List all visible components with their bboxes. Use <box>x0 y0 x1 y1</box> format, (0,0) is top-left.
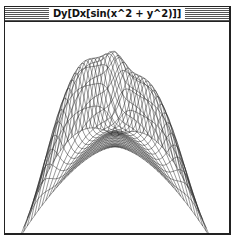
plot-area <box>5 22 229 233</box>
surface-plot <box>5 22 230 234</box>
plot-window: Dy[Dx[sin(x^2 + y^2)]] <box>4 6 231 235</box>
surface-mesh <box>20 51 210 234</box>
title-bar[interactable]: Dy[Dx[sin(x^2 + y^2)]] <box>5 7 229 22</box>
window-title: Dy[Dx[sin(x^2 + y^2)]] <box>49 8 185 20</box>
